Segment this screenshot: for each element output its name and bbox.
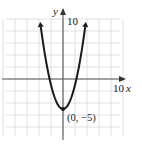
x-axis-label: x	[125, 82, 131, 94]
parabola-graph: y 10 10 x (0, −5)	[0, 0, 142, 146]
x-max-tick-label: 10	[113, 82, 125, 94]
y-axis-arrow-icon	[60, 8, 66, 15]
y-max-tick-label: 10	[67, 15, 79, 27]
vertex-label: (0, −5)	[67, 112, 96, 124]
y-axis-label: y	[52, 5, 58, 17]
vertex-point	[61, 107, 65, 111]
